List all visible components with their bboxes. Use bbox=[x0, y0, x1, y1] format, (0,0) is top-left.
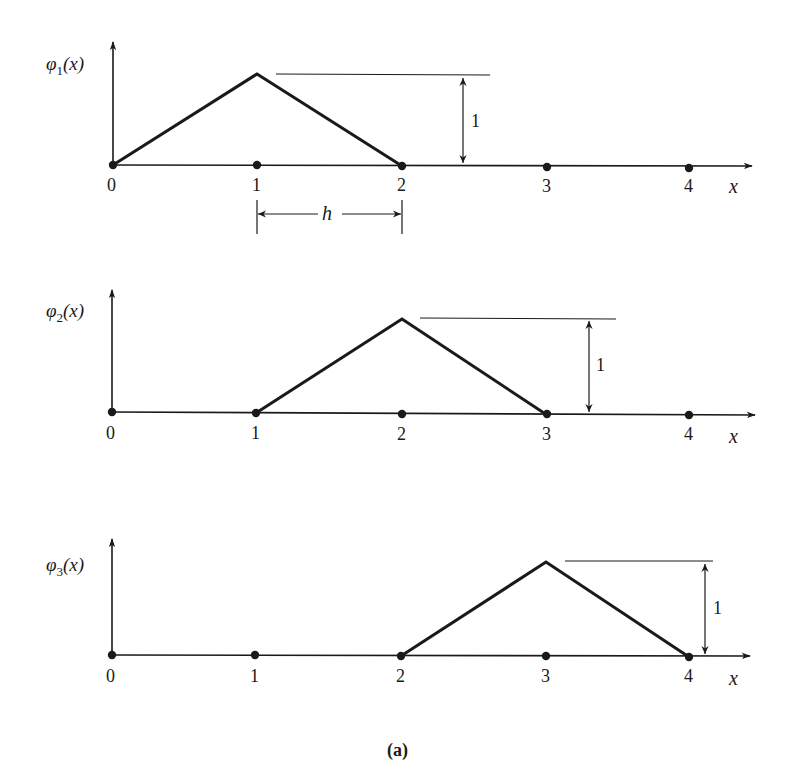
tick-label-1: 1 bbox=[252, 176, 261, 194]
node-2 bbox=[398, 162, 406, 170]
spacing-h-label: h bbox=[319, 203, 335, 223]
node-1 bbox=[251, 651, 259, 659]
y-axis-label-phi1: φ1(x) bbox=[46, 54, 84, 73]
node-3 bbox=[543, 410, 551, 418]
tick-label-0: 0 bbox=[107, 176, 116, 194]
figure-caption: (a) bbox=[387, 741, 408, 759]
x-axis-variable-label: x bbox=[729, 668, 738, 688]
tick-label-2: 2 bbox=[396, 667, 405, 685]
plot-phi3 bbox=[108, 539, 750, 661]
x-axis bbox=[113, 165, 752, 166]
y-axis-label-phi3: φ3(x) bbox=[46, 555, 84, 574]
tick-label-0: 0 bbox=[106, 424, 115, 442]
argument: (x) bbox=[63, 554, 84, 575]
node-3 bbox=[543, 163, 551, 171]
figure-line-art bbox=[0, 0, 798, 764]
height-label: 1 bbox=[596, 356, 605, 374]
hat-function-curve bbox=[256, 319, 547, 415]
node-4 bbox=[685, 411, 693, 419]
tick-label-3: 3 bbox=[541, 667, 550, 685]
tick-label-4: 4 bbox=[684, 667, 693, 685]
argument: (x) bbox=[63, 53, 84, 74]
node-3 bbox=[542, 652, 550, 660]
node-2 bbox=[397, 652, 405, 660]
tick-label-2: 2 bbox=[397, 425, 406, 443]
node-2 bbox=[398, 410, 406, 418]
subscript: 2 bbox=[57, 310, 64, 325]
subscript: 1 bbox=[57, 63, 64, 78]
x-axis-variable-label: x bbox=[729, 176, 738, 196]
node-4 bbox=[685, 164, 693, 172]
phi-symbol: φ bbox=[46, 300, 57, 321]
hat-function-curve bbox=[113, 74, 402, 166]
tick-label-2: 2 bbox=[397, 176, 406, 194]
x-axis-variable-label: x bbox=[729, 426, 738, 446]
phi-symbol: φ bbox=[46, 554, 57, 575]
height-label: 1 bbox=[713, 599, 722, 617]
node-0 bbox=[108, 408, 116, 416]
argument: (x) bbox=[63, 300, 84, 321]
node-1 bbox=[252, 409, 260, 417]
height-label: 1 bbox=[471, 112, 480, 130]
x-axis bbox=[112, 412, 755, 415]
tick-label-1: 1 bbox=[251, 424, 260, 442]
node-1 bbox=[253, 161, 261, 169]
reference-line bbox=[420, 318, 616, 319]
x-axis bbox=[112, 655, 750, 656]
y-axis-label-phi2: φ2(x) bbox=[46, 301, 84, 320]
node-0 bbox=[108, 651, 116, 659]
basis-functions-figure: φ1(x) 0 1 2 3 4 x 1 h φ2(x) 0 1 2 3 4 x … bbox=[0, 0, 798, 764]
node-4 bbox=[685, 653, 693, 661]
tick-label-4: 4 bbox=[684, 425, 693, 443]
tick-label-3: 3 bbox=[542, 177, 551, 195]
tick-label-1: 1 bbox=[250, 667, 259, 685]
phi-symbol: φ bbox=[46, 53, 57, 74]
plot-phi1 bbox=[109, 42, 752, 234]
node-0 bbox=[109, 161, 117, 169]
tick-label-3: 3 bbox=[542, 425, 551, 443]
tick-label-4: 4 bbox=[684, 177, 693, 195]
plot-phi2 bbox=[108, 290, 755, 419]
hat-function-curve bbox=[401, 562, 689, 657]
tick-label-0: 0 bbox=[106, 667, 115, 685]
subscript: 3 bbox=[57, 564, 64, 579]
reference-line bbox=[276, 74, 490, 75]
